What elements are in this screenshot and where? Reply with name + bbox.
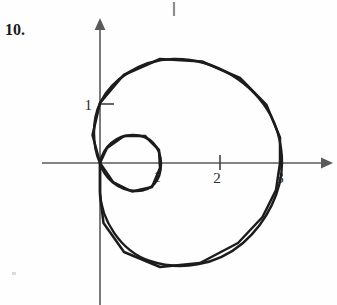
x-axis	[42, 158, 333, 169]
polar-graph: 1 2 3 1	[0, 0, 337, 305]
y-tick-label-1: 1	[85, 97, 93, 113]
right-arrow-icon	[321, 158, 333, 169]
figure-page: 10. 1 2 3 1	[0, 0, 337, 305]
up-arrow-icon	[95, 18, 106, 30]
scan-speck	[12, 272, 16, 275]
x-tick-label-2: 2	[213, 170, 221, 186]
